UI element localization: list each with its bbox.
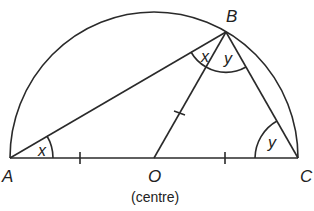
chord-ab	[10, 32, 226, 158]
semicircle-arc	[10, 12, 298, 158]
label-angle-c: y	[267, 134, 277, 151]
label-angle-a: x	[37, 142, 47, 159]
label-centre-caption: (centre)	[131, 189, 179, 205]
label-point-c: C	[300, 167, 313, 186]
label-point-b: B	[226, 7, 237, 26]
label-point-o: O	[148, 167, 161, 186]
angle-arc-a	[47, 136, 53, 158]
chord-bc	[226, 32, 298, 158]
label-angle-obc: y	[223, 50, 233, 67]
label-point-a: A	[1, 167, 13, 186]
radius-ob	[154, 32, 226, 158]
semicircle-diagram: A O C B (centre) x x y y	[0, 0, 314, 211]
label-angle-abo: x	[200, 48, 210, 65]
angle-arc-b-y	[206, 67, 246, 72]
